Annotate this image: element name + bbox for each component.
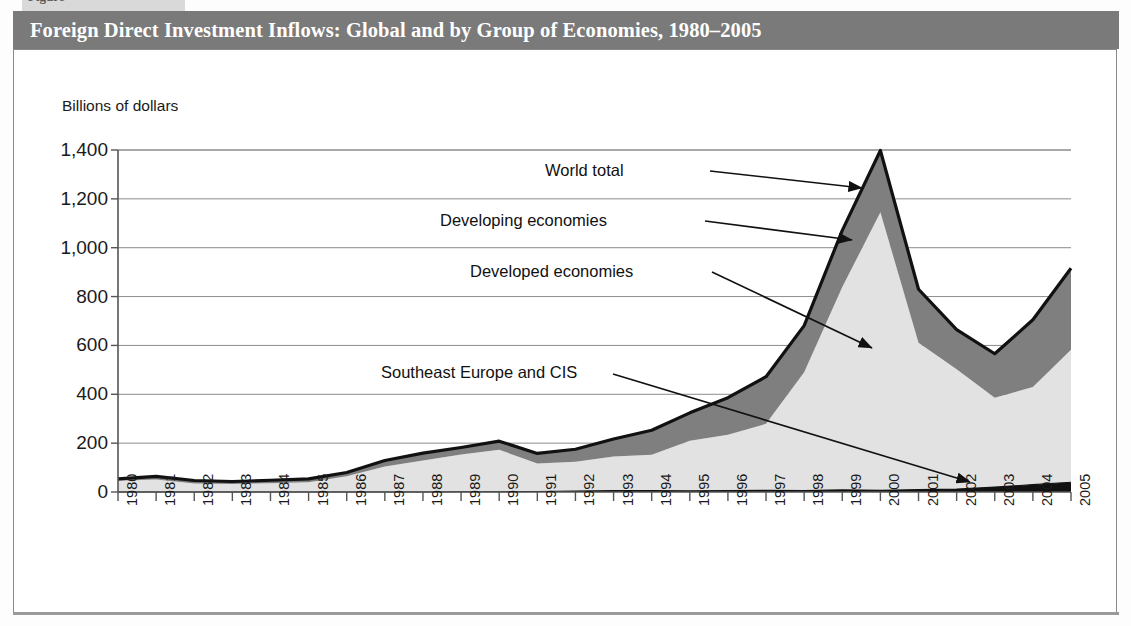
x-tick-label: 1989: [467, 474, 483, 506]
x-tick-label: 2004: [1039, 474, 1055, 506]
chart-plot: [0, 0, 1131, 626]
annotation-world-total: World total: [545, 161, 624, 180]
annotation-developing-economies: Developing economies: [440, 211, 607, 230]
y-tick-label: 200: [40, 432, 108, 454]
y-tick-label: 600: [40, 334, 108, 356]
x-tick-label: 2000: [886, 474, 902, 506]
area-series-group: [118, 150, 1071, 492]
x-tick-label: 1999: [848, 474, 864, 506]
x-tick-label: 1982: [200, 474, 216, 506]
x-tick-label: 1995: [696, 474, 712, 506]
x-tick-label: 1990: [505, 474, 521, 506]
x-tick-label: 1981: [162, 474, 178, 506]
x-tick-label: 2003: [1001, 474, 1017, 506]
annotation-southeast-europe-cis: Southeast Europe and CIS: [381, 363, 577, 382]
annotation-developed-economies: Developed economies: [470, 262, 633, 281]
x-tick-label: 2001: [925, 474, 941, 506]
x-tick-label: 1986: [353, 474, 369, 506]
y-tick-label: 1,000: [40, 237, 108, 259]
x-tick-label: 1992: [581, 474, 597, 506]
y-tick-label: 400: [40, 383, 108, 405]
y-tick-label: 1,200: [40, 188, 108, 210]
x-tick-label: 1983: [238, 474, 254, 506]
x-tick-label: 1987: [391, 474, 407, 506]
x-tick-label: 2005: [1077, 474, 1093, 506]
x-tick-label: 1994: [658, 474, 674, 506]
x-tick-label: 1993: [620, 474, 636, 506]
x-tick-label: 1998: [810, 474, 826, 506]
x-tick-label: 1980: [124, 474, 140, 506]
x-tick-label: 1984: [276, 474, 292, 506]
x-tick-label: 1988: [429, 474, 445, 506]
x-tick-label: 1997: [772, 474, 788, 506]
x-tick-label: 1996: [734, 474, 750, 506]
x-tick-label: 2002: [963, 474, 979, 506]
y-tick-label: 0: [40, 481, 108, 503]
figure-container: Figure Foreign Direct Investment Inflows…: [0, 0, 1131, 626]
y-tick-label: 1,400: [40, 139, 108, 161]
x-tick-label: 1985: [315, 474, 331, 506]
y-tick-label: 800: [40, 286, 108, 308]
x-tick-label: 1991: [543, 474, 559, 506]
